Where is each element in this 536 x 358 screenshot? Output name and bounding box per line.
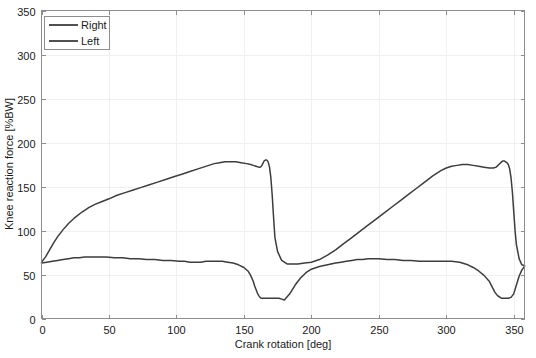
legend-label-right: Right: [81, 19, 107, 31]
x-tick-label: 300: [437, 324, 455, 336]
x-tick-label: 100: [167, 324, 185, 336]
series-lines: [42, 160, 525, 300]
y-tick-label: 200: [17, 138, 35, 150]
x-tick-label: 150: [235, 324, 253, 336]
series-line-right: [42, 160, 525, 266]
series-line-left: [42, 257, 525, 300]
chart-svg: 050100150200250300350 050100150200250300…: [0, 0, 536, 358]
y-tick-label: 50: [23, 270, 35, 282]
y-tick-label: 350: [17, 6, 35, 18]
x-tick-label: 250: [370, 324, 388, 336]
tick-marks: [42, 11, 525, 320]
legend-label-left: Left: [81, 35, 99, 47]
x-tick-label: 0: [39, 324, 45, 336]
y-tick-label: 100: [17, 226, 35, 238]
x-tick-labels: 050100150200250300350: [39, 324, 523, 336]
x-tick-label: 50: [103, 324, 115, 336]
y-tick-label: 0: [29, 314, 35, 326]
y-tick-labels: 050100150200250300350: [17, 6, 35, 326]
grid-lines: [42, 11, 525, 319]
y-tick-label: 250: [17, 94, 35, 106]
x-tick-label: 200: [302, 324, 320, 336]
y-tick-label: 300: [17, 50, 35, 62]
chart-legend[interactable]: Right Left: [45, 17, 110, 50]
y-tick-label: 150: [17, 182, 35, 194]
x-axis-title: Crank rotation [deg]: [235, 338, 332, 350]
x-tick-label: 350: [505, 324, 523, 336]
chart-figure: 050100150200250300350 050100150200250300…: [0, 0, 536, 358]
y-axis-title: Knee reaction force [%BW]: [3, 98, 15, 230]
axes-frame: [42, 11, 525, 319]
